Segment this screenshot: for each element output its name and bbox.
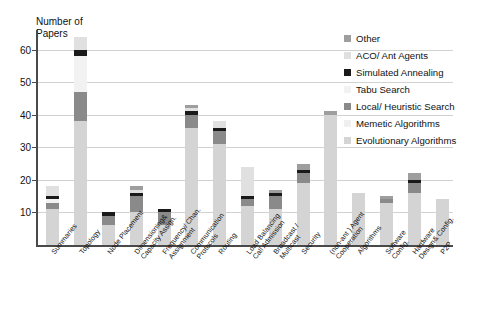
legend-item[interactable]: Simulated Annealing: [344, 64, 489, 81]
y-tick-label: 50: [20, 77, 31, 88]
legend-label: Simulated Annealing: [356, 67, 443, 78]
chart-root: Number of Papers 102030405060 SummariesT…: [0, 0, 489, 324]
legend-swatch-icon: [344, 35, 351, 42]
bar-segment: [74, 92, 87, 121]
bar-segment: [185, 115, 198, 128]
legend-item[interactable]: Tabu Search: [344, 81, 489, 98]
y-tick-label: 40: [20, 109, 31, 120]
legend-label: Evolutionary Algorithms: [356, 135, 456, 146]
legend-label: Other: [356, 33, 380, 44]
bar-segment: [324, 115, 337, 245]
bar-segment: [408, 183, 421, 193]
legend-item[interactable]: Evolutionary Algorithms: [344, 132, 489, 149]
legend-swatch-icon: [344, 86, 351, 93]
legend-swatch-icon: [344, 103, 351, 110]
y-tick-label: 20: [20, 174, 31, 185]
bar-segment: [102, 216, 115, 226]
bar-stack: [74, 37, 87, 245]
legend-swatch-icon: [344, 120, 351, 127]
bar-stack: [241, 167, 254, 245]
y-tick-mark: [32, 115, 36, 116]
y-tick-mark: [32, 82, 36, 83]
y-tick-label: 10: [20, 207, 31, 218]
bar-stack: [380, 196, 393, 245]
y-axis-line: [36, 30, 38, 247]
bar-segment: [269, 196, 282, 209]
legend-label: Memetic Algorithms: [356, 118, 440, 129]
legend-item[interactable]: Memetic Algorithms: [344, 115, 489, 132]
y-tick-mark: [32, 50, 36, 51]
y-tick-mark: [32, 212, 36, 213]
legend-item[interactable]: ACO/ Ant Agents: [344, 47, 489, 64]
legend-label: ACO/ Ant Agents: [356, 50, 428, 61]
y-tick-label: 60: [20, 44, 31, 55]
bar-segment: [74, 37, 87, 50]
y-tick-mark: [32, 147, 36, 148]
bar-stack: [324, 111, 337, 245]
legend: OtherACO/ Ant AgentsSimulated AnnealingT…: [344, 30, 489, 149]
legend-swatch-icon: [344, 137, 351, 144]
legend-item[interactable]: Other: [344, 30, 489, 47]
legend-item[interactable]: Local/ Heuristic Search: [344, 98, 489, 115]
bar-segment: [74, 56, 87, 92]
bar-segment: [297, 173, 310, 183]
bar-stack: [46, 186, 59, 245]
legend-swatch-icon: [344, 52, 351, 59]
legend-label: Tabu Search: [356, 84, 410, 95]
y-tick-mark: [32, 180, 36, 181]
bar-segment: [213, 131, 226, 144]
legend-label: Local/ Heuristic Search: [356, 101, 455, 112]
bar-segment: [46, 186, 59, 196]
legend-swatch-icon: [344, 69, 351, 76]
y-tick-label: 30: [20, 142, 31, 153]
bar-segment: [241, 167, 254, 196]
